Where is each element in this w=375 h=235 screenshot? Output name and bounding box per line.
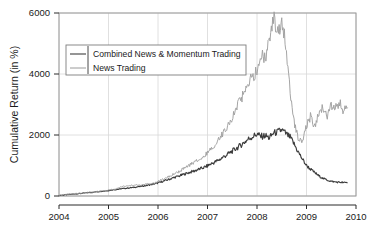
x-axis-ticks: 2004200520062007200820092010 bbox=[48, 205, 366, 222]
y-axis-title-text: Cumulative Return (in %) bbox=[8, 46, 20, 163]
x-tick-label: 2005 bbox=[98, 211, 119, 222]
chart-figure: 0200040006000 20042005200620072008200920… bbox=[0, 0, 375, 235]
legend-label-1: News Trading bbox=[93, 63, 146, 73]
y-tick-label: 2000 bbox=[29, 129, 50, 140]
x-tick-label: 2006 bbox=[147, 211, 168, 222]
y-tick-label: 0 bbox=[45, 190, 50, 201]
chart-canvas: 0200040006000 20042005200620072008200920… bbox=[0, 0, 375, 235]
y-axis-title: Cumulative Return (in %) bbox=[8, 46, 20, 163]
chart-legend: Combined News & Momentum TradingNews Tra… bbox=[66, 45, 246, 75]
legend-label-0: Combined News & Momentum Trading bbox=[93, 49, 241, 59]
x-tick-label: 2007 bbox=[197, 211, 218, 222]
y-axis-ticks: 0200040006000 bbox=[29, 7, 59, 201]
x-tick-label: 2008 bbox=[246, 211, 267, 222]
x-tick-label: 2004 bbox=[48, 211, 69, 222]
y-tick-label: 6000 bbox=[29, 7, 50, 18]
data-series bbox=[59, 12, 348, 196]
x-tick-label: 2009 bbox=[296, 211, 317, 222]
series-line-combined bbox=[59, 128, 348, 195]
y-tick-label: 4000 bbox=[29, 68, 50, 79]
x-tick-label: 2010 bbox=[345, 211, 366, 222]
